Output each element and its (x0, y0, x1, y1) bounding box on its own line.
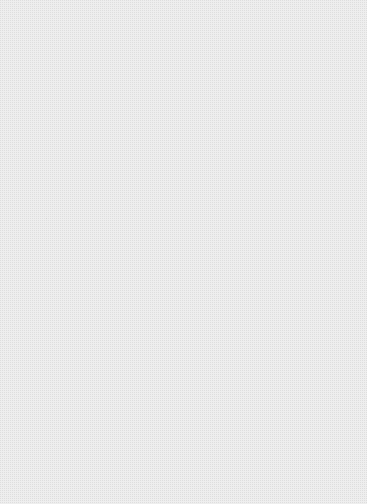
figure-root (0, 0, 367, 504)
surface-mesh-overlay (0, 0, 367, 504)
